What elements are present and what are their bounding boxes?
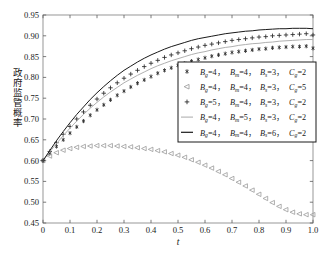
legend-label: Bg=4，: [200, 129, 225, 139]
x-tick-label: 0.2: [92, 225, 103, 235]
legend-label: Cg=2: [289, 68, 306, 78]
legend-label: Bm=4，: [230, 98, 256, 108]
x-tick-label: 0.4: [146, 225, 157, 235]
legend-label: Bg=4，: [200, 68, 225, 78]
legend-label: Bm=4，: [230, 68, 256, 78]
figure-container: 00.10.20.30.40.50.60.70.80.91.00.450.500…: [0, 0, 332, 266]
y-tick-label: 0.55: [24, 176, 39, 186]
legend-label: Cg=2: [289, 129, 306, 139]
legend: Bg=4，Bm=4，Bs=3，Cg=2Bg=4，Bm=4，Bs=3，Cg=5Bg…: [178, 62, 316, 142]
y-tick-label: 0.70: [24, 114, 39, 124]
x-tick-label: 1.0: [308, 225, 319, 235]
legend-label: Cg=2: [289, 113, 306, 123]
legend-label: Cg=2: [289, 98, 306, 108]
legend-label: Bs=3，: [260, 98, 284, 108]
y-tick-label: 0.75: [24, 93, 39, 103]
x-tick-label: 0.8: [254, 225, 265, 235]
x-tick-label: 0.1: [65, 225, 76, 235]
legend-label: Bm=5，: [230, 113, 256, 123]
legend-label: Cg=5: [289, 83, 306, 93]
y-tick-label: 0.95: [24, 10, 39, 20]
x-tick-label: 0.5: [173, 225, 184, 235]
legend-label: Bs=3，: [260, 68, 284, 78]
x-axis-title: t: [177, 237, 180, 247]
y-tick-label: 0.60: [24, 156, 39, 166]
y-tick-label: 0.50: [24, 197, 39, 207]
chart-plot: 00.10.20.30.40.50.60.70.80.91.00.450.500…: [0, 0, 332, 266]
legend-label: Bs=6，: [260, 129, 284, 139]
legend-label: Bm=4，: [230, 83, 256, 93]
y-tick-label: 0.90: [24, 31, 39, 41]
x-tick-label: 0.7: [227, 225, 238, 235]
x-tick-label: 0.6: [200, 225, 211, 235]
legend-label: Bs=3，: [260, 113, 284, 123]
legend-label: Bg=5，: [200, 98, 225, 108]
legend-label: Bg=4，: [200, 113, 225, 123]
x-tick-label: 0: [41, 225, 45, 235]
y-axis-title: 政府监管概率: [6, 68, 22, 128]
legend-label: Bm=4，: [230, 129, 256, 139]
y-tick-label: 0.45: [24, 218, 39, 228]
x-tick-label: 0.9: [281, 225, 292, 235]
y-tick-label: 0.80: [24, 72, 39, 82]
y-tick-label: 0.65: [24, 135, 39, 145]
legend-label: Bs=3，: [260, 83, 284, 93]
y-tick-label: 0.85: [24, 52, 39, 62]
x-tick-label: 0.3: [119, 225, 130, 235]
legend-label: Bg=4，: [200, 83, 225, 93]
